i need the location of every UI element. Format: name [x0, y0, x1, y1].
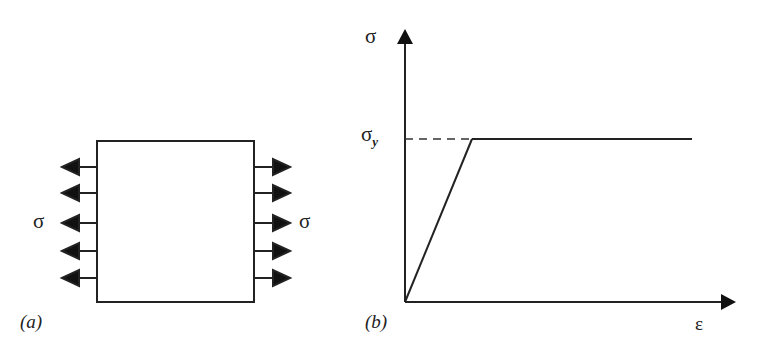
yield-subscript: y — [372, 134, 378, 149]
strain-axis — [405, 294, 736, 310]
elastic-segment — [405, 139, 472, 302]
right-tension-arrows — [254, 159, 290, 286]
right-stress-label: σ — [299, 209, 310, 234]
diagram-canvas — [0, 0, 762, 354]
yield-stress-symbol: σ — [361, 122, 372, 146]
stress-axis — [397, 29, 413, 302]
specimen-box — [97, 141, 254, 302]
caption-b: (b) — [365, 311, 387, 333]
x-axis-label: ε — [695, 313, 703, 335]
caption-a: (a) — [20, 311, 42, 333]
yield-stress-label: σy — [361, 122, 378, 150]
left-tension-arrows — [62, 159, 97, 286]
left-stress-label: σ — [33, 209, 44, 234]
y-axis-label: σ — [365, 24, 376, 49]
